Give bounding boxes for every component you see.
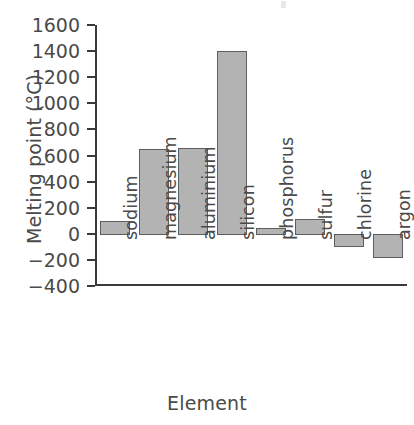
x-axis-title: Element	[0, 392, 414, 414]
y-tick-label: 600	[18, 145, 80, 167]
x-tick-label: magnesium	[160, 136, 180, 240]
y-tick-mark	[87, 76, 95, 78]
y-tick-mark	[87, 24, 95, 26]
melting-point-bar-chart: Melting point (°C) 160014001200100080060…	[0, 0, 414, 425]
y-tick-label: −200	[18, 249, 80, 271]
y-tick-mark	[87, 259, 95, 261]
y-tick-label: 0	[18, 223, 80, 245]
y-tick-mark	[87, 102, 95, 104]
x-tick-label: sulfur	[316, 190, 336, 240]
y-tick-mark	[87, 207, 95, 209]
y-tick-mark	[87, 233, 95, 235]
x-tick-label: argon	[394, 189, 414, 240]
y-tick-mark	[87, 181, 95, 183]
x-tick-label: phosphorus	[277, 136, 297, 239]
y-tick-label: 800	[18, 118, 80, 140]
y-tick-label: 1000	[18, 92, 80, 114]
plot-area	[95, 25, 407, 286]
x-tick-label: chlorine	[355, 169, 375, 240]
y-tick-label: 1200	[18, 66, 80, 88]
y-tick-mark	[87, 50, 95, 52]
x-tick-label: silicon	[238, 184, 258, 240]
y-tick-mark	[87, 128, 95, 130]
x-tick-label: aluminium	[199, 146, 219, 240]
y-axis-tick-labels: 16001400120010008006004002000−200−400	[18, 0, 80, 425]
y-tick-label: 1600	[18, 14, 80, 36]
x-axis-zero-line	[95, 284, 407, 286]
y-tick-mark	[87, 285, 95, 287]
y-axis-spine	[95, 25, 97, 286]
y-tick-label: 200	[18, 197, 80, 219]
scan-artifact	[281, 1, 286, 8]
y-tick-mark	[87, 155, 95, 157]
y-tick-label: 1400	[18, 40, 80, 62]
y-tick-label: 400	[18, 171, 80, 193]
x-tick-label: sodium	[121, 175, 141, 240]
y-tick-label: −400	[18, 275, 80, 297]
